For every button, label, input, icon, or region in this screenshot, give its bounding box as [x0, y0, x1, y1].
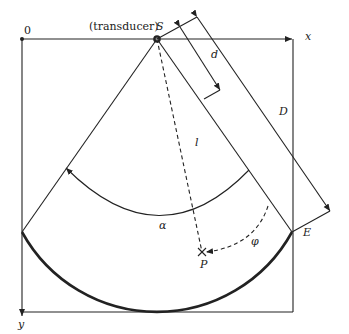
alpha-arc: [66, 168, 249, 216]
D-arrow: [197, 17, 330, 211]
sector-left-edge: [22, 39, 157, 232]
l-label: l: [195, 136, 199, 149]
origin-point: [20, 37, 24, 41]
origin-label: 0: [24, 24, 31, 37]
E-label: E: [302, 226, 311, 239]
D-label: D: [278, 105, 288, 118]
y-axis-label: y: [17, 318, 25, 331]
d-label: d: [211, 48, 218, 61]
alpha-label: α: [159, 219, 167, 232]
sector: [22, 39, 292, 312]
d-tick: [204, 90, 220, 99]
P-label: P: [199, 258, 208, 271]
phi-label: φ: [251, 235, 259, 248]
dimension-lines: [157, 17, 330, 232]
transducer-label: (transducer): [89, 20, 159, 33]
coordinate-frame: [22, 39, 293, 316]
point-P-marker: [198, 248, 206, 256]
ultrasound-geometry-diagram: 0 x y (transducer) S d D l α φ P E: [0, 0, 349, 334]
source-label: S: [156, 20, 164, 33]
x-axis-label: x: [305, 30, 312, 43]
